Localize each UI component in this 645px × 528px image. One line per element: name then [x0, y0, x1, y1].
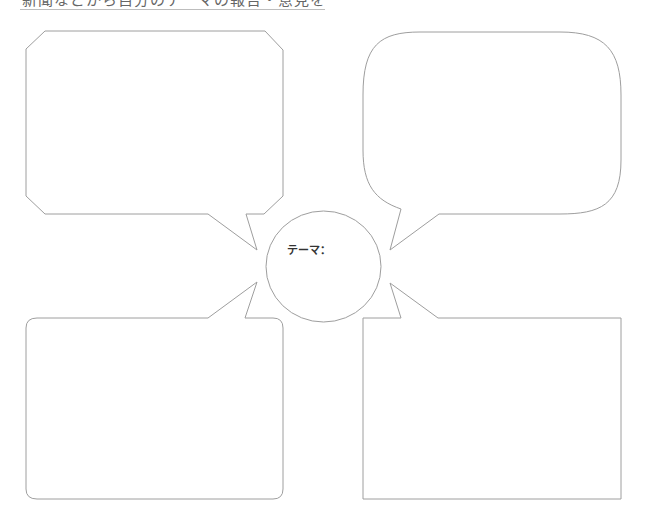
- bubble-bottom-left-text-area[interactable]: [35, 328, 275, 488]
- bubble-top-left-text-area[interactable]: [35, 55, 275, 195]
- theme-label: テーマ：: [287, 241, 331, 257]
- center-theme-circle[interactable]: [266, 211, 381, 322]
- bubble-top-right-text-area[interactable]: [375, 50, 610, 200]
- bubble-bottom-right-text-area[interactable]: [372, 328, 612, 488]
